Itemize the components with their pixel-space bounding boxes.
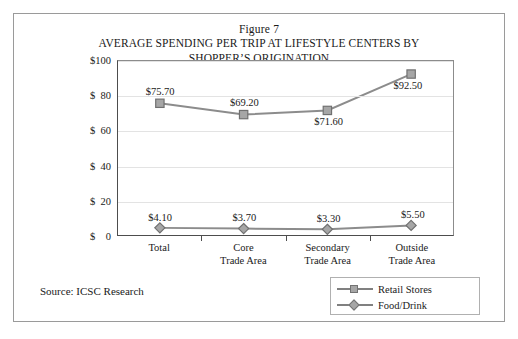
x-axis: TotalCoreTrade AreaSecondaryTrade AreaOu… [117,236,454,276]
x-axis-tick [370,236,371,241]
series-line-food-drink [160,225,411,229]
y-tick-label: $ 80 [90,90,111,101]
data-point-label: $5.50 [401,209,425,220]
figure-title-line-1: AVERAGE SPENDING PER TRIP AT LIFESTYLE C… [14,36,504,51]
chart-plot-area: $75.70$69.20$71.60$92.50$4.10$3.70$3.30$… [117,60,454,236]
y-tick-label: $ 60 [90,125,111,136]
data-point-marker [155,223,165,233]
legend-swatch-diamond-icon [337,298,373,312]
y-tick-label: $ 20 [90,195,111,206]
data-point-label: $69.20 [230,97,259,108]
gridline [118,202,453,203]
x-axis-tick [286,236,287,241]
data-point-marker [239,224,249,234]
x-axis-category-label: Total [148,242,169,255]
x-axis-category-label: OutsideTrade Area [389,242,436,267]
chart-plot-wrapper: $ 0$ 20$ 40$ 60$ 80$100 $75.70$69.20$71.… [65,60,454,249]
data-point-label: $92.50 [393,80,422,91]
chart-legend: Retail Stores Food/Drink [330,277,480,315]
legend-item-retail-stores: Retail Stores [337,281,479,297]
data-point-label: $71.60 [314,116,343,127]
data-point-marker [239,110,247,118]
data-point-marker [323,106,331,114]
figure-frame: Figure 7 AVERAGE SPENDING PER TRIP AT LI… [13,13,505,322]
legend-label-food-drink: Food/Drink [378,300,427,311]
gridline [118,61,453,62]
gridline [118,167,453,168]
series-line-retail-stores [160,74,411,115]
legend-label-retail-stores: Retail Stores [378,284,432,295]
y-tick-label: $ 0 [90,231,111,242]
data-point-label: $3.70 [233,212,257,223]
y-tick-label: $100 [90,55,111,66]
x-axis-category-label: SecondaryTrade Area [304,242,351,267]
legend-item-food-drink: Food/Drink [337,297,479,313]
data-point-marker [156,99,164,107]
y-axis-tick-labels: $ 0$ 20$ 40$ 60$ 80$100 [65,60,115,236]
figure-title-block: Figure 7 AVERAGE SPENDING PER TRIP AT LI… [14,22,504,65]
legend-swatch-square-icon [337,282,373,296]
figure-number: Figure 7 [14,22,504,36]
data-point-marker [322,224,332,234]
data-point-label: $4.10 [148,212,172,223]
data-point-label: $75.70 [146,86,175,97]
x-axis-tick [201,236,202,241]
gridline [118,131,453,132]
data-point-label: $3.30 [317,213,341,224]
x-axis-category-label: CoreTrade Area [220,242,267,267]
data-point-marker [406,220,416,230]
data-point-marker [407,70,415,78]
source-note: Source: ICSC Research [40,285,144,297]
y-tick-label: $ 40 [90,160,111,171]
